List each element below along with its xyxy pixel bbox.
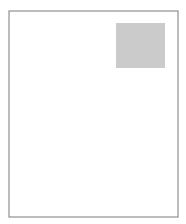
map-canvas [0,0,186,224]
highlighted-region[interactable] [116,23,165,68]
